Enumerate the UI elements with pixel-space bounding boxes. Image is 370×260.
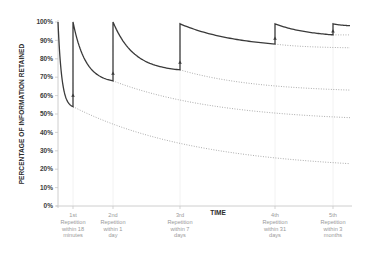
x-tick-label: 5th: [329, 212, 337, 218]
y-tick-label: 90%: [40, 37, 53, 44]
x-tick-label: Repetition: [262, 219, 287, 225]
x-axis-ticks: 1stRepetitionwithin 18minutes2ndRepetiti…: [60, 206, 345, 238]
retention-curve: [58, 22, 350, 107]
y-tick-label: 80%: [40, 55, 53, 62]
x-tick-label: minutes: [63, 232, 83, 238]
arrow-up-icon: [178, 60, 182, 63]
x-tick-label: within 3: [323, 226, 343, 232]
x-tick-label: within 7: [170, 226, 190, 232]
forgetting-curve-chart: 0%10%20%30%40%50%60%70%80%90%100% 1stRep…: [0, 0, 370, 260]
gridlines: [73, 22, 333, 206]
repetition-markers: [71, 29, 335, 97]
decay-curve: [73, 107, 350, 164]
arrow-up-icon: [273, 37, 277, 40]
x-tick-label: Repetition: [167, 219, 192, 225]
arrow-up-icon: [331, 29, 335, 32]
y-tick-label: 20%: [40, 165, 53, 172]
decay-curve: [180, 70, 350, 90]
x-tick-label: Repetition: [100, 219, 125, 225]
x-tick-label: day: [108, 232, 117, 238]
y-axis-label: PERCENTAGE OF INFORMATION RETAINED: [18, 43, 25, 184]
x-tick-label: 1st: [69, 212, 77, 218]
decay-curves: [73, 35, 350, 164]
decay-curve: [275, 44, 350, 48]
x-tick-label: 3rd: [176, 212, 184, 218]
x-tick-label: 4th: [271, 212, 279, 218]
retention-line: [58, 22, 350, 107]
y-tick-label: 40%: [40, 129, 53, 136]
y-axis-ticks: 0%10%20%30%40%50%60%70%80%90%100%: [36, 18, 58, 209]
x-tick-label: months: [324, 232, 343, 238]
y-tick-label: 60%: [40, 92, 53, 99]
y-tick-label: 30%: [40, 147, 53, 154]
arrow-up-icon: [71, 94, 75, 97]
x-tick-label: within 31: [263, 226, 286, 232]
x-tick-label: 2nd: [108, 212, 117, 218]
y-tick-label: 10%: [40, 184, 53, 191]
x-tick-label: within 18: [61, 226, 84, 232]
y-tick-label: 70%: [40, 73, 53, 80]
x-tick-label: days: [174, 232, 186, 238]
arrow-up-icon: [111, 72, 115, 75]
x-axis-label: TIME: [210, 209, 226, 216]
x-tick-label: within 1: [103, 226, 123, 232]
axes: [56, 20, 352, 208]
y-tick-label: 100%: [36, 18, 53, 25]
y-tick-label: 50%: [40, 110, 53, 117]
y-tick-label: 0%: [44, 202, 54, 209]
decay-curve: [113, 81, 350, 118]
x-tick-label: Repetition: [60, 219, 85, 225]
x-tick-label: days: [269, 232, 281, 238]
x-tick-label: Repetition: [320, 219, 345, 225]
